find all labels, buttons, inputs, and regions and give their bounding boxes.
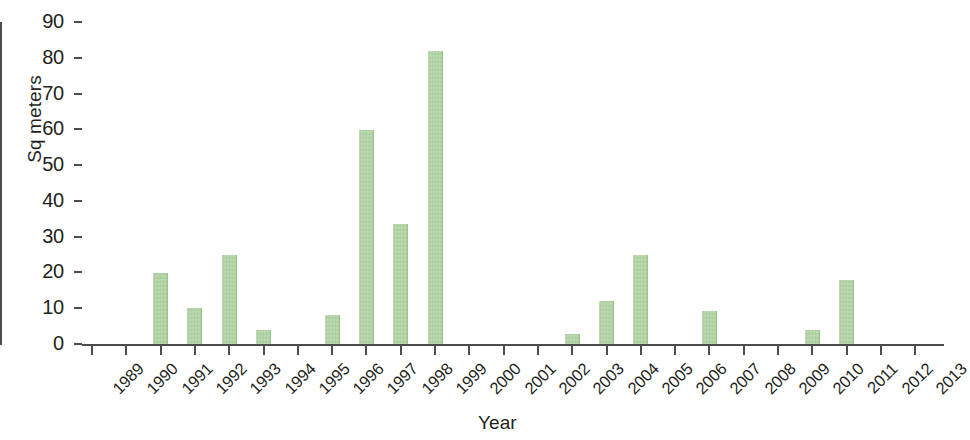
x-axis-tick [434, 346, 436, 355]
y-axis-tick [74, 200, 82, 202]
x-axis-tick [331, 346, 333, 355]
bar-1994 [256, 330, 271, 344]
x-axis-tick-label: 1996 [350, 360, 387, 397]
bar-1997 [359, 130, 374, 344]
x-axis-tick [777, 346, 779, 355]
y-axis-tick [74, 21, 82, 23]
bar-1991 [153, 273, 168, 344]
x-axis-tick [537, 346, 539, 355]
y-axis-tick [74, 128, 82, 130]
bar-2005 [633, 255, 648, 344]
bar-2007 [702, 311, 717, 344]
x-axis-tick [708, 346, 710, 355]
y-axis-tick [74, 93, 82, 95]
x-axis-tick [297, 346, 299, 355]
x-axis-tick-label: 1992 [212, 360, 249, 397]
y-axis-tick [74, 57, 82, 59]
y-axis-tick-label: 40 [2, 190, 64, 210]
x-axis-tick-label: 2002 [555, 360, 592, 397]
y-axis-tick-label: 30 [2, 226, 64, 246]
y-axis-tick-label: 50 [2, 154, 64, 174]
x-axis-tick [503, 346, 505, 355]
bar-2010 [805, 330, 820, 344]
x-axis-tick-label: 1997 [384, 360, 421, 397]
x-axis-tick-label: 2012 [898, 360, 935, 397]
x-axis-tick-label: 1999 [453, 360, 490, 397]
y-axis-tick-label: 0 [2, 333, 64, 353]
x-axis-tick [160, 346, 162, 355]
x-axis-tick-label: 2009 [796, 360, 833, 397]
x-axis-tick [880, 346, 882, 355]
x-axis-tick-label: 1994 [281, 360, 318, 397]
x-axis-tick [846, 346, 848, 355]
x-axis-tick-label: 2000 [487, 360, 524, 397]
x-axis-tick-label: 2001 [521, 360, 558, 397]
x-axis-tick-label: 2011 [864, 360, 901, 397]
y-axis-tick-label: 70 [2, 83, 64, 103]
x-axis-tick-label: 2006 [693, 360, 730, 397]
x-axis-tick [811, 346, 813, 355]
plot-area [82, 22, 942, 345]
bar-2004 [599, 301, 614, 344]
bar-2011 [839, 280, 854, 344]
x-axis-tick-label: 2008 [761, 360, 798, 397]
x-axis-tick [743, 346, 745, 355]
x-axis-tick-label: 2013 [933, 360, 970, 397]
y-axis-tick-label: 90 [2, 11, 64, 31]
x-axis-tick [91, 346, 93, 355]
bar-1992 [187, 308, 202, 344]
bar-1993 [222, 255, 237, 344]
x-axis-tick [194, 346, 196, 355]
x-axis-tick-label: 1998 [418, 360, 455, 397]
x-axis-tick [606, 346, 608, 355]
x-axis-tick [263, 346, 265, 355]
x-axis-tick [400, 346, 402, 355]
x-axis-tick-label: 1995 [315, 360, 352, 397]
x-axis-tick-label: 1990 [144, 360, 181, 397]
x-axis-tick-label: 2007 [727, 360, 764, 397]
y-axis-tick [74, 307, 82, 309]
y-axis-tick [74, 343, 82, 345]
y-axis-tick [74, 271, 82, 273]
bar-1999 [428, 51, 443, 344]
x-axis-tick-label: 1991 [178, 360, 215, 397]
x-axis-tick-label: 2004 [624, 360, 661, 397]
x-axis-tick [640, 346, 642, 355]
y-axis-tick [74, 164, 82, 166]
x-axis-tick [228, 346, 230, 355]
y-axis-tick-label: 20 [2, 261, 64, 281]
bar-2003 [565, 334, 580, 344]
bar-1998 [393, 224, 408, 344]
x-axis-tick-label: 1993 [247, 360, 284, 397]
y-axis-tick-label: 80 [2, 47, 64, 67]
y-axis-tick [74, 236, 82, 238]
x-axis-tick [125, 346, 127, 355]
y-axis-tick-label: 10 [2, 297, 64, 317]
bar-1996 [325, 315, 340, 344]
x-axis-tick-label: 2005 [658, 360, 695, 397]
x-axis-title: Year [478, 412, 517, 434]
y-axis-tick-label: 60 [2, 118, 64, 138]
x-axis-tick [365, 346, 367, 355]
x-axis-tick-label: 2010 [830, 360, 867, 397]
x-axis-tick-label: 2003 [590, 360, 627, 397]
x-axis-tick [674, 346, 676, 355]
x-axis-tick [468, 346, 470, 355]
x-axis-tick [914, 346, 916, 355]
x-axis-tick-label: 1989 [110, 360, 147, 397]
x-axis-tick [571, 346, 573, 355]
